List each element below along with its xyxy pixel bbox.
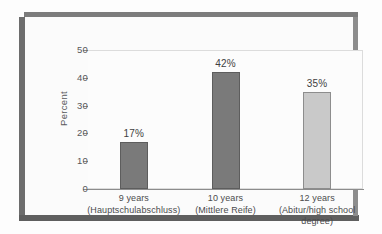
y-tick-label-30: 30 <box>42 100 88 111</box>
bar-value-label-1: 17% <box>104 128 164 139</box>
y-tick-label-40: 40 <box>42 72 88 83</box>
bar-2 <box>212 72 240 189</box>
category-label-line1: 9 years <box>119 193 149 203</box>
category-label-line1: 10 years <box>208 193 243 203</box>
bar-3 <box>303 92 331 189</box>
category-label-line3: degree) <box>261 216 373 228</box>
x-axis-line <box>88 189 364 190</box>
chart-card: Percent 01020304050 17%42%35% 9 years(Ha… <box>25 17 353 215</box>
bar-value-label-2: 42% <box>196 58 256 69</box>
y-tick-label-10: 10 <box>42 155 88 166</box>
category-label-line1: 12 years <box>299 193 334 203</box>
y-tick-label-50: 50 <box>42 44 88 55</box>
category-label-3: 12 years(Abitur/high schooldegree) <box>261 193 373 228</box>
figure-frame: Percent 01020304050 17%42%35% 9 years(Ha… <box>0 0 382 234</box>
bar-1 <box>120 142 148 189</box>
category-label-line2: (Abitur/high school <box>261 205 373 217</box>
y-tick-label-20: 20 <box>42 127 88 138</box>
bar-value-label-3: 35% <box>287 78 347 89</box>
